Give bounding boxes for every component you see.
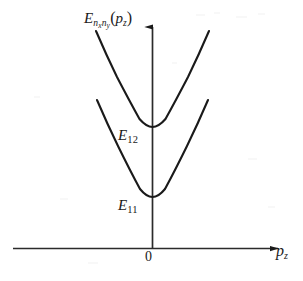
momentum-axis-label: pz: [276, 243, 288, 261]
energy-level-label-e11: E11: [118, 198, 138, 216]
energy-level-index-e12: 12: [127, 134, 138, 145]
energy-dispersion-figure: Enxny(pz) pz 0 E12 E11: [0, 0, 303, 281]
energy-axis-subscript-nx: nx: [93, 18, 101, 28]
origin-label: 0: [145, 250, 152, 264]
energy-axis-label: Enxny(pz): [84, 10, 132, 30]
energy-axis-close-paren: ): [127, 9, 132, 26]
momentum-axis-symbol: p: [276, 242, 284, 259]
energy-level-index-e11: 11: [127, 204, 138, 215]
energy-level-label-e12: E12: [118, 128, 138, 146]
energy-level-symbol-e11: E: [118, 197, 127, 213]
energy-axis-subscript-ny: ny: [102, 18, 110, 28]
momentum-axis-subscript: z: [284, 250, 288, 261]
energy-axis-argument: p: [115, 10, 123, 26]
plot-canvas: [0, 0, 303, 281]
energy-level-symbol-e12: E: [118, 127, 127, 143]
energy-axis-symbol: E: [84, 10, 93, 26]
